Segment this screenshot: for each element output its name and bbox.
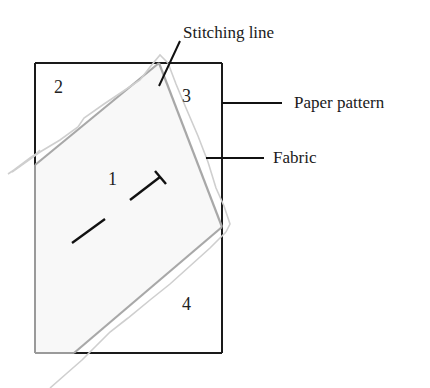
- section-number-2: 2: [54, 78, 63, 96]
- section-number-3: 3: [182, 87, 191, 105]
- stitching-line-label: Stitching line: [183, 24, 274, 41]
- cut-off-heading: [0, 0, 430, 6]
- diagram-canvas: [0, 0, 430, 388]
- section-number-1: 1: [108, 170, 117, 188]
- section-number-4: 4: [182, 295, 191, 313]
- fabric-piece: [35, 63, 222, 353]
- paper-pattern-label: Paper pattern: [294, 94, 384, 111]
- fabric-label: Fabric: [273, 149, 316, 166]
- foundation-piecing-diagram: Stitching line Paper pattern Fabric 1 2 …: [0, 0, 430, 388]
